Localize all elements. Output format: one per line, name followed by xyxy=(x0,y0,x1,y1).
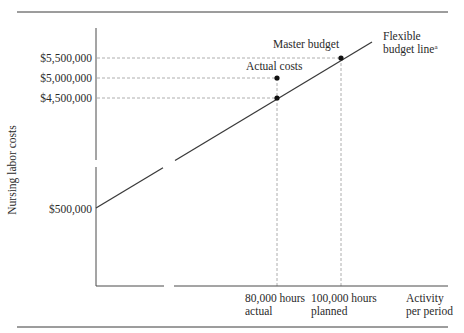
flex-label-text: budget line xyxy=(383,43,434,55)
actual-costs-label: Actual costs xyxy=(246,60,303,73)
x-axis-title-line1: Activity xyxy=(406,292,453,305)
flexible-budget-line xyxy=(96,42,372,208)
flexible-budget-label: Flexible budget linea xyxy=(383,30,438,56)
y-tick-4500000: $4,500,000 xyxy=(12,92,92,105)
master-budget-label: Master budget xyxy=(273,38,339,51)
flexible-budget-label-line1: Flexible xyxy=(383,30,438,43)
flexible-budget-label-line2: budget linea xyxy=(383,43,438,56)
actual-costs-point xyxy=(274,75,279,80)
x-tick-80000-line1: 80,000 hours xyxy=(245,292,305,305)
x-tick-80000: 80,000 hours actual xyxy=(245,292,305,318)
guide-lines xyxy=(97,58,341,286)
y-tick-5000000: $5,000,000 xyxy=(12,72,92,85)
x-axis-title-line2: per period xyxy=(406,305,453,318)
flex-line-lower xyxy=(96,168,163,208)
footnote-marker: a xyxy=(434,43,437,51)
y-tick-5500000: $5,500,000 xyxy=(12,52,92,65)
x-tick-80000-line2: actual xyxy=(245,305,305,318)
y-tick-500000: $500,000 xyxy=(12,203,92,216)
x-tick-100000: 100,000 hours planned xyxy=(311,292,377,318)
x-tick-100000-line1: 100,000 hours xyxy=(311,292,377,305)
master-budget-point xyxy=(338,55,343,60)
x-axis-title: Activity per period xyxy=(406,292,453,318)
flexible-at-actual-point xyxy=(274,95,279,100)
x-tick-100000-line2: planned xyxy=(311,305,377,318)
y-axis-title: Nursing labor costs xyxy=(6,125,18,214)
